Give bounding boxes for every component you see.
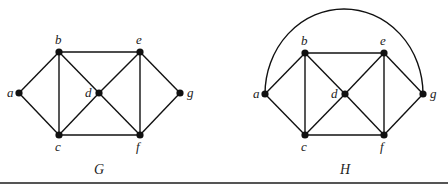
edge-f-g xyxy=(140,93,180,135)
edge-a-b xyxy=(19,52,59,93)
edge-e-g xyxy=(140,52,180,93)
vertex-label-e: e xyxy=(136,32,142,47)
vertex-label-f: f xyxy=(380,139,386,154)
vertex-label-a: a xyxy=(253,86,260,101)
vertex-dot-e xyxy=(380,49,387,56)
graph-caption: G xyxy=(94,162,104,177)
edge-b-d xyxy=(59,52,99,93)
vertex-dot-b xyxy=(301,49,308,56)
edge-d-f xyxy=(345,94,384,135)
edge-e-g xyxy=(384,53,423,94)
edge-c-d xyxy=(305,94,345,135)
edge-f-g xyxy=(384,94,423,135)
vertex-label-b: b xyxy=(55,32,62,47)
vertex-label-g: g xyxy=(430,86,437,101)
vertex-label-d: d xyxy=(331,86,338,101)
graph-H: abcdefgH xyxy=(253,9,437,177)
vertex-dot-b xyxy=(55,48,62,55)
arc-edge-a-g xyxy=(265,9,423,94)
edge-a-c xyxy=(19,93,59,135)
edge-d-e xyxy=(345,53,384,94)
vertex-dot-e xyxy=(136,48,143,55)
vertex-label-c: c xyxy=(301,139,307,154)
vertex-dot-f xyxy=(380,131,387,138)
graph-caption: H xyxy=(339,162,351,177)
edge-d-f xyxy=(99,93,140,135)
vertex-label-g: g xyxy=(187,85,194,100)
vertex-dot-d xyxy=(341,90,348,97)
vertex-label-a: a xyxy=(7,85,14,100)
vertex-dot-f xyxy=(136,131,143,138)
vertex-label-e: e xyxy=(380,33,386,48)
vertex-dot-c xyxy=(301,131,308,138)
vertex-dot-a xyxy=(261,90,268,97)
vertex-dot-a xyxy=(15,89,22,96)
vertex-dot-g xyxy=(419,90,426,97)
vertex-label-c: c xyxy=(55,139,61,154)
bottom-divider-rule xyxy=(0,182,448,184)
graph-G: abcdefgG xyxy=(7,32,194,177)
edge-b-d xyxy=(305,53,345,94)
edge-d-e xyxy=(99,52,140,93)
figure-graphs-g-and-h: abcdefgGabcdefgH xyxy=(0,0,448,186)
vertex-dot-g xyxy=(176,89,183,96)
vertex-label-f: f xyxy=(136,139,142,154)
vertex-dot-c xyxy=(55,131,62,138)
edge-a-c xyxy=(265,94,305,135)
vertex-label-b: b xyxy=(301,33,308,48)
vertex-dot-d xyxy=(95,89,102,96)
graph-diagram-canvas: abcdefgGabcdefgH xyxy=(0,0,448,186)
vertex-label-d: d xyxy=(85,85,92,100)
edge-a-b xyxy=(265,53,305,94)
edge-c-d xyxy=(59,93,99,135)
